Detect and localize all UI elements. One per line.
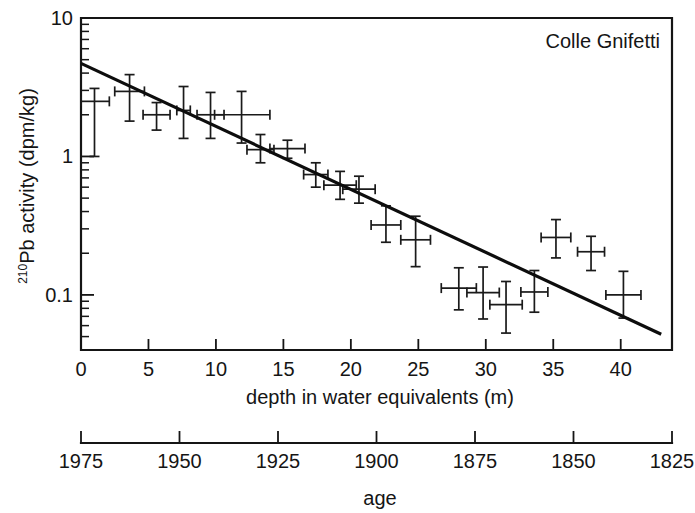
plot-frame-path <box>81 18 672 350</box>
data-point <box>143 103 170 131</box>
age-tick-label: 1850 <box>551 450 596 472</box>
y-axis-title-group: 210Pb activity (dpm/kg) <box>16 88 38 284</box>
x-tick-label: 15 <box>272 358 294 380</box>
data-point <box>81 88 109 156</box>
data-point <box>541 220 571 258</box>
age-tick-label: 1925 <box>256 450 301 472</box>
plot-frame <box>81 18 672 350</box>
x-tick-label: 25 <box>407 358 429 380</box>
y-axis-superscript: 210 <box>16 263 30 283</box>
exponential-fit-line <box>81 63 661 334</box>
y-tick-label: 10 <box>51 7 73 29</box>
panel-label-colle-gnifetti: Colle Gnifetti <box>546 30 661 52</box>
age-tick-label: 1950 <box>157 450 202 472</box>
data-point <box>578 236 605 270</box>
x-axis-depth: 0510152025303540 <box>75 339 631 380</box>
figure-container: 1010.1 0510152025303540 Colle Gnifetti 2… <box>0 0 695 513</box>
data-point <box>490 281 522 333</box>
x-axis-title: depth in water equivalents (m) <box>246 386 514 408</box>
age-axis: 1975195019251900187518501825 <box>59 431 695 472</box>
x-tick-label: 5 <box>143 358 154 380</box>
y-tick-label: 0.1 <box>45 284 73 306</box>
data-point <box>441 268 476 310</box>
x-tick-label: 40 <box>610 358 632 380</box>
y-axis: 1010.1 <box>45 7 94 337</box>
x-tick-label: 0 <box>75 358 86 380</box>
pb210-activity-chart: 1010.1 0510152025303540 Colle Gnifetti 2… <box>0 0 695 513</box>
data-point <box>467 267 499 319</box>
x-tick-label: 20 <box>340 358 362 380</box>
age-tick-label: 1900 <box>354 450 399 472</box>
y-axis-title: 210Pb activity (dpm/kg) <box>16 88 38 284</box>
age-tick-label: 1975 <box>59 450 104 472</box>
age-tick-label: 1875 <box>453 450 498 472</box>
x-tick-label: 10 <box>205 358 227 380</box>
y-axis-title-main: Pb activity (dpm/kg) <box>16 88 38 264</box>
age-tick-label: 1825 <box>650 450 695 472</box>
data-series-pb210 <box>81 75 641 333</box>
age-axis-title: age <box>363 487 396 509</box>
y-tick-label: 1 <box>62 145 73 167</box>
x-tick-label: 35 <box>542 358 564 380</box>
x-tick-label: 30 <box>475 358 497 380</box>
